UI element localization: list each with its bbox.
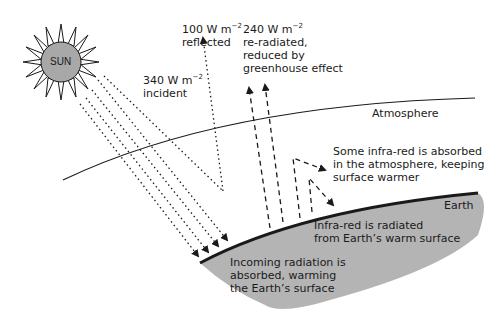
earth-label: Earth xyxy=(444,199,474,212)
reradiated-label: 240 W m−2 re-radiated, reduced by greenh… xyxy=(243,23,343,75)
reflected-radiation-arrow xyxy=(104,38,223,191)
incoming-label: Incoming radiation is absorbed, warming … xyxy=(230,256,346,295)
absorbed-atmosphere-label: Some infra-red is absorbed in the atmosp… xyxy=(333,145,485,184)
infrared-label: Infra-red is radiated from Earth’s warm … xyxy=(314,219,460,245)
incident-label: 340 W m−2 incident xyxy=(143,74,203,100)
atmosphere-label: Atmosphere xyxy=(372,107,439,120)
incoming-radiation-arrows xyxy=(80,80,227,256)
sun-label: SUN xyxy=(50,56,71,67)
reradiated-arrows xyxy=(249,85,283,228)
absorbed-atmosphere-arrows xyxy=(293,158,333,218)
reflected-label: 100 W m−2 reflected xyxy=(182,23,242,49)
